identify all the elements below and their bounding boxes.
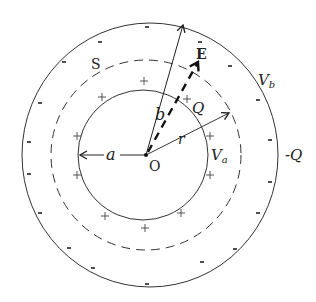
label-inner-potential: Va (211, 146, 228, 165)
label-radius-a: a (106, 145, 116, 164)
plus-charge (141, 224, 149, 232)
label-surface-s: S (91, 56, 101, 72)
label-radius-r: r (178, 131, 186, 147)
plus-charge (183, 95, 191, 103)
spherical-capacitor-diagram: O a b r E S Q -Q Va Vb (0, 0, 316, 302)
plus-charge (206, 171, 214, 179)
label-center-o: O (149, 158, 160, 174)
plus-charge (101, 212, 109, 220)
center-point (144, 153, 148, 157)
plus-charge (206, 132, 214, 140)
label-radius-b: b (155, 105, 165, 124)
label-inner-charge-q: Q (192, 99, 204, 117)
plus-charge (140, 77, 148, 85)
outer-sphere (22, 23, 278, 287)
label-outer-charge-neg-q: -Q (285, 146, 302, 164)
label-outer-potential: Vb (258, 71, 275, 90)
outer-charges (27, 27, 272, 284)
label-field-e: E (196, 46, 207, 62)
plus-charge (98, 93, 106, 101)
